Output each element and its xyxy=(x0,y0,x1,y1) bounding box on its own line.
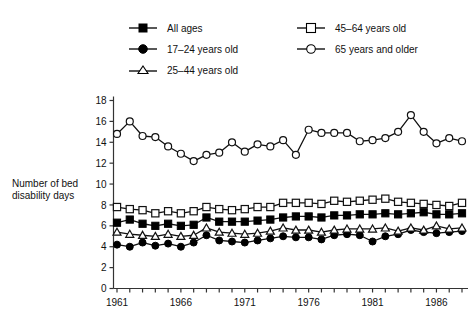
data-point-marker xyxy=(343,212,350,219)
data-point-marker xyxy=(241,206,248,213)
data-point-marker xyxy=(241,148,248,155)
data-point-marker xyxy=(305,199,312,206)
data-point-marker xyxy=(420,209,427,216)
data-point-marker xyxy=(292,234,299,241)
data-point-marker xyxy=(446,135,453,142)
data-point-marker xyxy=(113,203,120,210)
data-point-marker xyxy=(126,216,133,223)
data-point-marker xyxy=(216,206,223,213)
data-point-marker xyxy=(190,208,197,215)
data-point-marker xyxy=(126,118,133,125)
data-point-marker xyxy=(356,138,363,145)
data-point-marker xyxy=(203,232,210,239)
y-axis-tick-label: 6 xyxy=(101,220,107,231)
data-point-marker xyxy=(165,220,172,227)
data-point-marker xyxy=(280,214,287,221)
data-point-marker xyxy=(139,239,146,246)
data-point-marker xyxy=(229,139,236,146)
data-point-marker xyxy=(369,196,376,203)
data-point-marker xyxy=(280,137,287,144)
data-point-marker xyxy=(177,222,184,229)
data-point-marker xyxy=(254,237,261,244)
data-point-marker xyxy=(228,218,235,225)
data-point-marker xyxy=(369,211,376,218)
data-point-marker xyxy=(458,210,465,217)
data-point-marker xyxy=(152,242,159,249)
data-point-marker xyxy=(152,134,159,141)
data-point-marker xyxy=(126,206,133,213)
data-point-marker xyxy=(139,207,146,214)
x-axis-tick-label: 1981 xyxy=(361,297,384,308)
data-point-marker xyxy=(241,218,248,225)
y-axis-tick-label: 4 xyxy=(101,241,107,252)
data-point-marker xyxy=(216,149,223,156)
data-point-marker xyxy=(446,202,453,209)
data-point-marker xyxy=(113,219,120,226)
data-point-marker xyxy=(420,128,427,135)
data-point-marker xyxy=(458,199,465,206)
data-point-marker xyxy=(356,232,363,239)
data-point-marker xyxy=(459,138,466,145)
data-point-marker xyxy=(420,200,427,207)
data-point-marker xyxy=(216,218,223,225)
data-point-marker xyxy=(280,199,287,206)
data-point-marker xyxy=(382,233,389,240)
data-point-marker xyxy=(164,230,172,237)
data-point-marker xyxy=(114,241,121,248)
data-point-marker xyxy=(343,198,350,205)
data-point-marker xyxy=(190,221,197,228)
data-point-marker xyxy=(216,237,223,244)
data-point-marker xyxy=(165,208,172,215)
x-axis-tick-label: 1961 xyxy=(106,297,129,308)
x-axis-tick-label: 1976 xyxy=(298,297,321,308)
data-point-marker xyxy=(292,151,299,158)
data-point-marker xyxy=(318,129,325,136)
y-axis-tick-label: 0 xyxy=(101,283,107,294)
data-point-marker xyxy=(241,239,248,246)
data-point-marker xyxy=(407,112,414,119)
data-point-marker xyxy=(190,158,197,165)
data-point-marker xyxy=(382,210,389,217)
data-point-marker xyxy=(267,216,274,223)
data-point-marker xyxy=(177,243,184,250)
y-axis-tick-label: 2 xyxy=(101,262,107,273)
y-axis-tick-label: 18 xyxy=(95,95,107,106)
data-point-marker xyxy=(228,207,235,214)
data-point-marker xyxy=(202,224,210,231)
data-point-marker xyxy=(446,211,453,218)
data-point-marker xyxy=(369,137,376,144)
y-axis-tick-label: 10 xyxy=(95,179,107,190)
data-point-marker xyxy=(331,212,338,219)
data-point-marker xyxy=(382,195,389,202)
series-65-years-and-older xyxy=(114,112,466,165)
y-axis-tick-label: 14 xyxy=(95,137,107,148)
data-point-marker xyxy=(395,211,402,218)
data-point-marker xyxy=(203,214,210,221)
data-point-marker xyxy=(305,126,312,133)
data-point-marker xyxy=(126,243,133,250)
data-point-marker xyxy=(331,129,338,136)
data-point-marker xyxy=(139,220,146,227)
data-point-marker xyxy=(190,239,197,246)
data-point-marker xyxy=(356,197,363,204)
data-point-marker xyxy=(292,199,299,206)
data-point-marker xyxy=(407,210,414,217)
y-axis-tick-label: 16 xyxy=(95,116,107,127)
data-point-marker xyxy=(432,222,440,229)
data-point-marker xyxy=(331,197,338,204)
y-axis-tick-label: 12 xyxy=(95,158,107,169)
data-point-marker xyxy=(305,234,312,241)
data-point-marker xyxy=(254,203,261,210)
data-point-marker xyxy=(267,143,274,150)
data-point-marker xyxy=(113,228,121,235)
x-axis-tick-label: 1966 xyxy=(170,297,193,308)
data-point-marker xyxy=(152,210,159,217)
data-point-marker xyxy=(254,217,261,224)
data-point-marker xyxy=(344,129,351,136)
data-point-marker xyxy=(433,201,440,208)
data-point-marker xyxy=(318,214,325,221)
data-point-marker xyxy=(177,210,184,217)
data-point-marker xyxy=(305,213,312,220)
bed-disability-days-chart: All ages 17–24 years old 25–44 years old xyxy=(0,0,473,323)
series-line xyxy=(117,115,462,161)
